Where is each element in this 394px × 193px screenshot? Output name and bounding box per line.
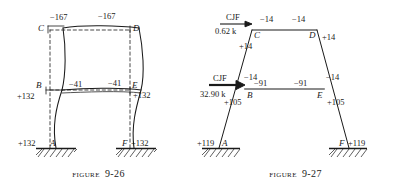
lower-cjf-magnitude: 32.90 k [200,90,226,99]
support-fixed-F [116,149,157,158]
moment-lower-left-column: +105 [224,98,242,107]
moment-right-column-mid: +132 [133,91,151,100]
joint-label-C: C [38,24,44,33]
joint-label-D: D [309,31,316,40]
joint-label-F: F [122,139,128,148]
joint-label-F: F [339,139,345,148]
caption-number: 9-27 [302,168,322,179]
moment-mid-left-beam: −91 [254,79,267,88]
moment-mid-left-beam: −41 [69,80,82,89]
caption-number: 9-26 [105,168,125,179]
upper-cjf-label: CJF [226,13,240,22]
moment-top-right-beam: −167 [98,12,116,21]
joint-label-E: E [132,81,138,90]
figure-9-27: C D B E A F CJF 0.62 k CJF 32.90 k −14 −… [197,0,394,193]
moment-top-left-beam: −14 [260,15,273,24]
caption-word: Figure [72,168,100,179]
moment-right-base: +132 [131,139,149,148]
upper-cjf-magnitude: 0.62 k [215,27,236,36]
moment-lower-right-column: +105 [327,98,345,107]
support-fixed-A [36,149,77,158]
joint-label-B: B [36,81,42,90]
figure-9-27-caption: Figure9-27 [197,168,394,179]
moment-mid-right-outside: −14 [326,73,339,82]
lower-cjf-label: CJF [213,74,227,83]
moment-upper-left-column: +14 [239,42,252,51]
moment-left-base: +119 [197,139,214,148]
joint-label-A: A [50,139,56,148]
figure-9-26-caption: Figure9-26 [0,168,197,179]
moment-left-base: +132 [18,139,36,148]
joint-label-A: A [222,139,228,148]
moment-top-right-beam: −14 [292,15,305,24]
moment-upper-right-column: +14 [322,33,335,42]
joint-label-C: C [254,31,260,40]
support-fixed-A [202,149,240,158]
caption-word: Figure [269,168,297,179]
figure-9-26: C D B E A F −167 −167 −41 −41 +132 +132 … [0,0,197,193]
moment-top-left-beam: −167 [50,13,68,22]
figure-page: C D B E A F −167 −167 −41 −41 +132 +132 … [0,0,394,193]
joint-label-D: D [133,24,140,33]
moment-mid-right-beam: −41 [108,79,121,88]
joint-label-E: E [317,91,323,100]
moment-right-base: +119 [348,139,365,148]
moment-mid-right-beam: −91 [294,79,307,88]
moment-left-column-mid: +132 [17,92,35,101]
support-fixed-F [329,149,367,158]
joint-label-B: B [247,91,253,100]
